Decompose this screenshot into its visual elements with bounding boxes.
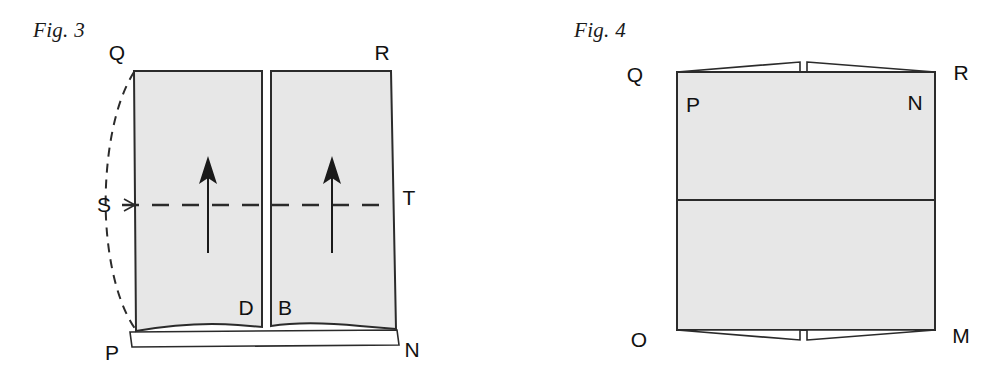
bottom-right-flap	[807, 330, 935, 340]
figure-3-label-S: S	[97, 193, 111, 216]
figure-4-label-R: R	[953, 61, 968, 84]
figure-4-label-P: P	[686, 93, 700, 116]
figure-4: Fig. 4 Q R P N O M	[491, 0, 982, 380]
figure-plate: Fig. 3 Q	[0, 0, 982, 380]
figure-3-label-N: N	[404, 338, 419, 361]
figure-3-label-P: P	[105, 341, 119, 364]
figure-3-label-Q: Q	[109, 41, 125, 64]
bottom-left-flap	[677, 330, 800, 340]
figure-4-label-O: O	[631, 328, 647, 351]
figure-4-drawing: Q R P N O M	[491, 0, 982, 380]
right-shaded-panel	[271, 71, 396, 329]
top-left-flap	[677, 62, 800, 72]
lower-shaded-panel	[677, 200, 935, 330]
figure-4-label-Q: Q	[627, 63, 643, 86]
top-right-flap	[807, 62, 935, 72]
figure-4-label-N: N	[907, 91, 922, 114]
figure-3-drawing: Q R S T D B P N	[0, 0, 491, 380]
figure-4-label-M: M	[952, 324, 970, 347]
figure-3-label-T: T	[403, 186, 416, 209]
base-strip	[130, 330, 399, 347]
left-shaded-panel	[134, 71, 262, 331]
figure-3: Fig. 3 Q	[0, 0, 491, 380]
figure-3-label-R: R	[374, 41, 389, 64]
upper-shaded-panel	[677, 72, 935, 200]
figure-3-label-B: B	[278, 296, 292, 319]
figure-3-label-D: D	[238, 296, 253, 319]
